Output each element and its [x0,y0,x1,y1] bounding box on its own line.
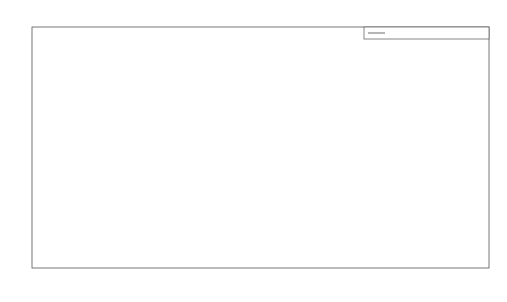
eds-spectrum-chart [0,0,507,302]
plot-area [32,27,489,268]
legend [364,27,489,39]
